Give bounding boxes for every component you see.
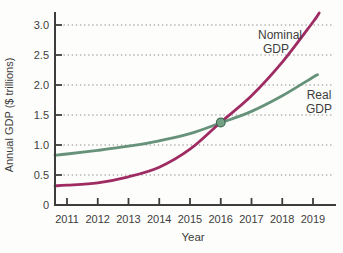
real-gdp-label-line2: GDP (306, 102, 332, 116)
x-tick-label-2016: 2016 (209, 213, 233, 225)
nominal-gdp-label-line1: Nominal (258, 28, 302, 42)
y-tick-label-1.0: 1.0 (34, 139, 49, 151)
x-tick-label-2011: 2011 (55, 213, 79, 225)
x-tick-label-2012: 2012 (86, 213, 110, 225)
x-tick-label-2018: 2018 (270, 213, 294, 225)
x-axis-title: Year (181, 231, 204, 243)
gdp-line-chart: 20112012201320142015201620172018201900.5… (0, 0, 343, 253)
y-tick-label-2.5: 2.5 (34, 49, 49, 61)
x-tick-label-2014: 2014 (147, 213, 171, 225)
nominal-gdp-label-line2: GDP (263, 42, 289, 56)
real-gdp-curve (55, 75, 318, 155)
y-tick-label-0.5: 0.5 (34, 169, 49, 181)
x-tick-label-2019: 2019 (301, 213, 325, 225)
y-tick-label-0: 0 (43, 199, 49, 211)
x-tick-label-2017: 2017 (239, 213, 263, 225)
y-axis-title: Annual GDP ($ trillions) (3, 58, 15, 173)
chart-canvas: 20112012201320142015201620172018201900.5… (0, 0, 343, 253)
y-tick-label-3.0: 3.0 (34, 19, 49, 31)
x-tick-label-2015: 2015 (178, 213, 202, 225)
y-tick-label-1.5: 1.5 (34, 109, 49, 121)
y-tick-label-2.0: 2.0 (34, 79, 49, 91)
real-gdp-label-line1: Real (307, 88, 332, 102)
intersection-marker (216, 118, 225, 127)
x-tick-label-2013: 2013 (116, 213, 140, 225)
